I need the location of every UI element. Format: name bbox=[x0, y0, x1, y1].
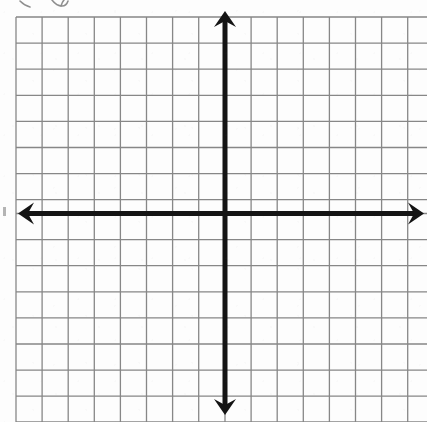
coordinate-plane-worksheet bbox=[0, 0, 427, 422]
axes-svg bbox=[0, 0, 427, 422]
axes-layer bbox=[0, 0, 427, 422]
scan-speck bbox=[3, 207, 6, 216]
